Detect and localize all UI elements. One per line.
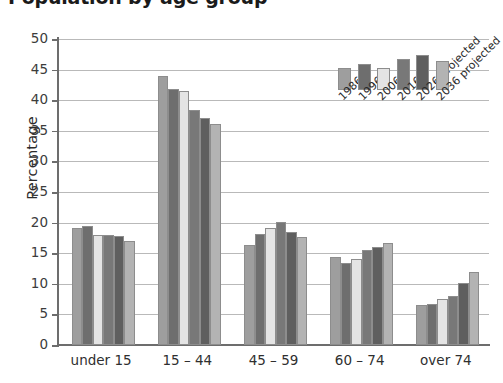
bar — [72, 228, 83, 346]
y-tick-label: 50 — [14, 30, 48, 46]
bar — [276, 222, 287, 345]
y-tick-label: 0 — [14, 336, 48, 352]
bar — [189, 110, 200, 345]
bar — [427, 304, 438, 345]
y-tick-label: 30 — [14, 152, 48, 168]
bar — [103, 235, 114, 345]
y-tick-label: 40 — [14, 91, 48, 107]
x-tick-label: 45 – 59 — [230, 352, 316, 368]
bar-group — [416, 39, 479, 345]
bar — [265, 228, 276, 346]
bar — [255, 234, 266, 345]
y-tick-label: 15 — [14, 244, 48, 260]
y-tick-label: 20 — [14, 214, 48, 230]
bar-group — [330, 39, 393, 345]
bar — [244, 245, 255, 345]
x-tick-label: over 74 — [403, 352, 489, 368]
bar — [469, 272, 480, 345]
y-tick-label: 5 — [14, 305, 48, 321]
bar — [168, 89, 179, 345]
bar — [124, 241, 135, 345]
y-tick-label: 45 — [14, 61, 48, 77]
y-tick-label: 25 — [14, 183, 48, 199]
bar — [93, 235, 104, 345]
bar — [179, 91, 190, 345]
x-tick-label: 60 – 74 — [317, 352, 403, 368]
bar — [416, 305, 427, 345]
x-tick-label: under 15 — [58, 352, 144, 368]
bar — [82, 226, 93, 345]
bar — [437, 299, 448, 345]
bar — [210, 124, 221, 345]
bar — [448, 296, 459, 345]
y-tick-label: 10 — [14, 275, 48, 291]
bar — [351, 259, 362, 345]
bar — [114, 236, 125, 345]
x-tick-label: 15 – 44 — [144, 352, 230, 368]
bar-group — [244, 39, 307, 345]
bar — [330, 257, 341, 345]
bar — [372, 247, 383, 345]
bar — [286, 232, 297, 345]
y-tick-label: 35 — [14, 122, 48, 138]
bar — [341, 263, 352, 345]
bar — [362, 250, 373, 345]
bar-group — [158, 39, 221, 345]
bar — [383, 243, 394, 345]
bar-group — [72, 39, 135, 345]
chart-title: Population by age group — [8, 0, 267, 8]
bar — [158, 76, 169, 345]
plot-area — [58, 39, 489, 345]
bar — [200, 118, 211, 345]
bar — [297, 237, 308, 345]
bar — [458, 283, 469, 345]
